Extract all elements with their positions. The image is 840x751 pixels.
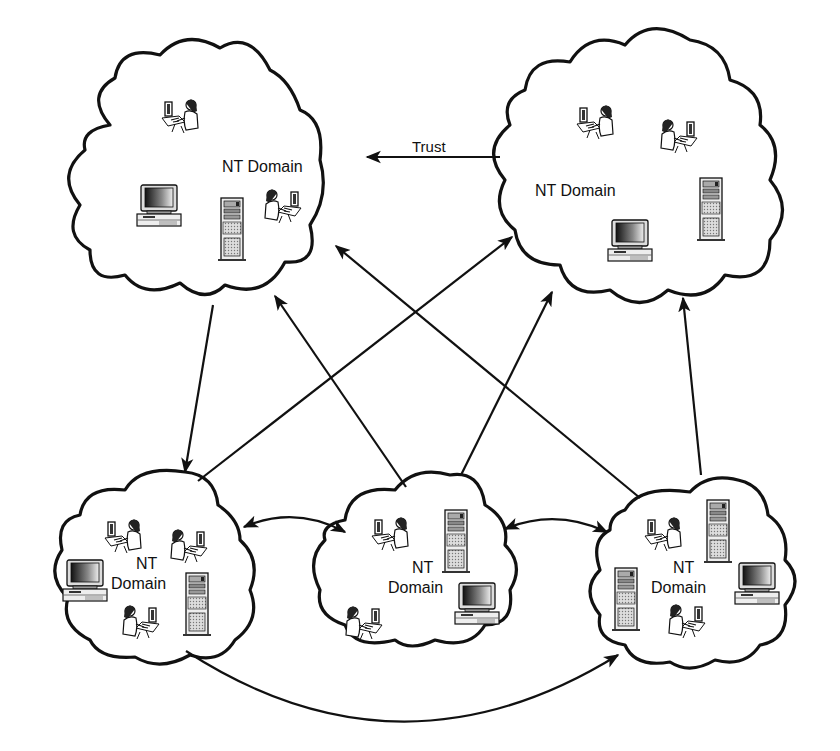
domain-bottom-right: NT Domain bbox=[590, 478, 795, 668]
domain-top-left: NT Domain bbox=[69, 39, 324, 294]
domain-label: NT Domain bbox=[535, 182, 616, 199]
domain-bottom-middle: NT Domain bbox=[314, 472, 517, 646]
domain-bottom-left: NT Domain bbox=[55, 470, 254, 664]
domain-label-line1: NT bbox=[673, 559, 695, 576]
domain-label-line2: Domain bbox=[388, 579, 443, 596]
trust-arrow-bottommiddle-to-topright bbox=[461, 292, 552, 475]
trust-diagram: NT Domain NT Domain NT Domain NT Domain bbox=[0, 0, 840, 751]
domain-label-line1: NT bbox=[136, 555, 158, 572]
trust-arrow-bottomright-to-topright bbox=[683, 298, 701, 475]
trust-arrow-topleft-to-bottomleft bbox=[185, 305, 213, 472]
trust-arrow-bottomleft-to-bottomright bbox=[186, 651, 618, 722]
trust-label: Trust bbox=[412, 138, 446, 155]
domain-label-line2: Domain bbox=[651, 579, 706, 596]
domain-label: NT Domain bbox=[222, 158, 303, 175]
domain-label-line1: NT bbox=[412, 559, 434, 576]
trust-arrow-bottommiddle-to-topleft bbox=[275, 296, 406, 487]
domain-label-line2: Domain bbox=[111, 575, 166, 592]
trust-arrow-bottommiddle-bottomright bbox=[505, 519, 607, 532]
domain-top-right: NT Domain bbox=[494, 29, 783, 303]
